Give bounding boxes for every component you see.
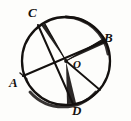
geometry-canvas	[0, 0, 131, 121]
point-label-a: A	[9, 76, 18, 89]
wedge-o-c-edge	[45, 24, 66, 61]
point-label-c: C	[28, 6, 37, 19]
wedge-o-b-edge	[66, 38, 105, 61]
point-label-d: D	[72, 104, 81, 117]
geometry-figure: C B A D O	[0, 0, 131, 121]
point-label-o: O	[73, 59, 81, 70]
center-point-dot	[64, 59, 68, 63]
point-label-b: B	[104, 31, 113, 44]
